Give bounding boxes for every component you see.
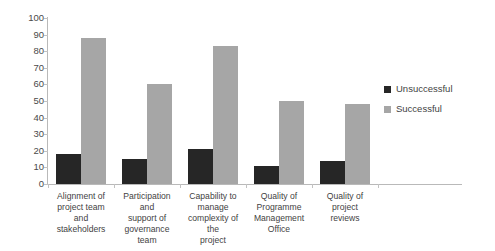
bar-group — [180, 18, 246, 184]
y-axis-tick-label: 20 — [0, 146, 44, 156]
x-axis-tick-mark — [378, 184, 379, 188]
legend-item[interactable]: Successful — [384, 99, 453, 119]
x-axis-tick-mark — [180, 184, 181, 188]
bar-group — [312, 18, 378, 184]
bar-group-bars — [246, 18, 312, 184]
legend-item[interactable]: Unsuccessful — [384, 79, 453, 99]
plot-area — [48, 18, 378, 184]
bar-group-bars — [48, 18, 114, 184]
bar-successful — [81, 38, 106, 184]
x-axis-category-label: Participation andsupport ofgovernance te… — [114, 191, 180, 246]
bar-unsuccessful — [122, 159, 147, 184]
x-axis-tick-mark — [312, 184, 313, 188]
chart-legend: UnsuccessfulSuccessful — [384, 79, 453, 119]
y-axis-tick-label: 10 — [0, 163, 44, 173]
x-axis-labels: Alignment ofproject team andstakeholders… — [48, 191, 378, 246]
x-axis-category-label: Capability tomanagecomplexity of theproj… — [180, 191, 246, 246]
x-axis-tick-mark — [246, 184, 247, 188]
bar-unsuccessful — [188, 149, 213, 184]
y-axis-tick-label: 50 — [0, 96, 44, 106]
y-axis-tick-label: 70 — [0, 63, 44, 73]
x-axis-tick-mark — [48, 184, 49, 188]
y-axis-tick-label: 0 — [0, 179, 44, 189]
bar-successful — [345, 104, 370, 184]
legend-swatch-icon — [384, 106, 391, 113]
bar-group — [246, 18, 312, 184]
x-axis-tick-mark — [114, 184, 115, 188]
bar-chart: 1009080706050403020100 Alignment ofproje… — [0, 0, 495, 251]
y-axis-tick-label: 40 — [0, 113, 44, 123]
y-axis-tick-label: 100 — [0, 13, 44, 23]
bar-unsuccessful — [56, 154, 81, 184]
bar-group-bars — [114, 18, 180, 184]
bar-group-bars — [180, 18, 246, 184]
bar-unsuccessful — [254, 166, 279, 184]
bar-successful — [147, 84, 172, 184]
y-axis-tick-label: 90 — [0, 30, 44, 40]
bar-group-bars — [312, 18, 378, 184]
x-axis-category-label: Quality ofProgrammeManagementOffice — [246, 191, 312, 246]
legend-item-label: Successful — [396, 104, 442, 114]
y-axis-tick-label: 60 — [0, 80, 44, 90]
bar-unsuccessful — [320, 161, 345, 184]
y-axis-tick-label: 80 — [0, 46, 44, 56]
x-axis-category-label: Alignment ofproject team andstakeholders — [48, 191, 114, 246]
bar-group — [48, 18, 114, 184]
x-axis-line — [47, 184, 462, 185]
y-axis-tick-label: 30 — [0, 129, 44, 139]
x-axis-category-label: Quality of projectreviews — [312, 191, 378, 246]
bar-group — [114, 18, 180, 184]
bar-successful — [279, 101, 304, 184]
bar-successful — [213, 46, 238, 184]
legend-item-label: Unsuccessful — [396, 84, 453, 94]
legend-swatch-icon — [384, 86, 391, 93]
